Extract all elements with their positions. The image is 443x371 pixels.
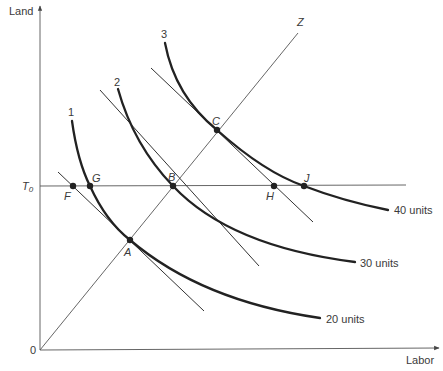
point-h (271, 183, 277, 189)
point-h-label: H (266, 190, 274, 202)
point-a-label: A (123, 246, 131, 258)
isoquant-2-curve (118, 89, 355, 262)
x-axis-label: Labor (406, 354, 434, 366)
point-g-label: G (92, 172, 101, 184)
origin-label: 0 (30, 344, 36, 356)
expansion-path-label: Z (296, 16, 305, 28)
isoquant-3-output: 40 units (394, 204, 433, 216)
land-constraint-label-sub: 0 (29, 185, 34, 194)
point-f-label: F (64, 190, 72, 202)
isoquant-2-number: 2 (114, 76, 120, 88)
isoquant-1-number: 1 (68, 106, 74, 118)
tangent-line-b (100, 90, 259, 266)
isoquant-1-curve (72, 121, 320, 318)
isoquant-3-number: 3 (161, 28, 167, 40)
point-b-label: B (168, 171, 175, 183)
isoquant-1-output: 20 units (326, 313, 365, 325)
point-c-label: C (212, 115, 220, 127)
isoquant-2-output: 30 units (360, 257, 399, 269)
point-a (127, 237, 133, 243)
tangent-line-c (151, 68, 313, 222)
point-c (214, 127, 220, 133)
land-constraint-label: T0 (22, 180, 34, 194)
point-b (170, 183, 176, 189)
land-constraint-line (40, 185, 406, 186)
x-axis (40, 348, 439, 350)
point-f (70, 183, 76, 189)
point-j-label: J (303, 172, 310, 184)
isoquant-diagram: Land Labor 0 T0 Z 1 20 units 2 30 units … (0, 0, 443, 371)
y-axis-label: Land (9, 5, 33, 17)
